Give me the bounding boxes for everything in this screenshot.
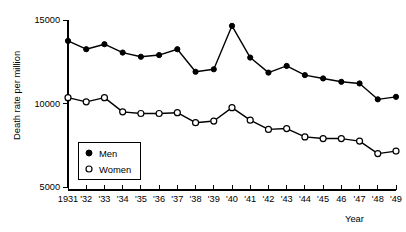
x-tick-label: '36: [153, 194, 165, 204]
y-axis-title: Death rate per million: [11, 51, 22, 140]
data-point: [320, 136, 326, 142]
x-tick-label: '47: [354, 194, 366, 204]
data-point: [393, 148, 399, 154]
data-point: [174, 110, 180, 116]
data-point: [247, 117, 253, 123]
y-tick-label: 5000: [40, 182, 60, 192]
legend-marker-women: [86, 166, 92, 172]
x-tick-label: '48: [372, 194, 384, 204]
data-point: [65, 95, 71, 101]
x-tick-label: '37: [171, 194, 183, 204]
x-tick-label: '42: [262, 194, 274, 204]
data-point: [84, 47, 89, 52]
data-point: [339, 79, 344, 84]
line-chart: 50001000015000 1931'32'33'34'35'36'37'38…: [0, 0, 406, 232]
x-axis: 1931'32'33'34'35'36'37'38'39'40'41'42'43…: [58, 185, 402, 204]
x-tick-label: '33: [98, 194, 110, 204]
data-point: [193, 69, 198, 74]
data-point: [375, 151, 381, 157]
x-tick-label: '49: [390, 194, 402, 204]
data-point: [284, 126, 290, 132]
data-point: [65, 38, 70, 43]
data-point: [248, 55, 253, 60]
data-point: [156, 111, 162, 117]
x-tick-label: '40: [226, 194, 238, 204]
data-point: [265, 126, 271, 132]
legend-marker-men: [86, 150, 92, 156]
data-point: [321, 76, 326, 81]
data-point: [120, 109, 126, 115]
data-point: [211, 118, 217, 124]
x-tick-label: '32: [80, 194, 92, 204]
x-tick-label: '34: [117, 194, 129, 204]
data-point: [211, 67, 216, 72]
data-point: [375, 97, 380, 102]
data-point: [175, 47, 180, 52]
y-axis: 50001000015000: [34, 15, 68, 192]
data-point: [229, 23, 234, 28]
data-point: [284, 63, 289, 68]
data-point: [102, 42, 107, 47]
legend-label-women: Women: [99, 164, 131, 175]
data-point: [229, 105, 235, 111]
data-point: [302, 134, 308, 140]
data-point: [138, 111, 144, 117]
x-tick-label: '44: [299, 194, 311, 204]
x-tick-label: '38: [190, 194, 202, 204]
chart-legend: Men Women: [78, 142, 140, 179]
data-point: [120, 50, 125, 55]
data-point: [157, 52, 162, 57]
data-point: [302, 73, 307, 78]
y-tick-label: 15000: [34, 15, 60, 25]
chart-figure: 50001000015000 1931'32'33'34'35'36'37'38…: [0, 0, 406, 232]
y-tick-group: 50001000015000: [34, 15, 68, 192]
x-tick-label: 46: [336, 194, 346, 204]
data-point: [357, 81, 362, 86]
x-tick-label: '39: [208, 194, 220, 204]
y-tick-label: 10000: [34, 99, 60, 109]
series-layer: [65, 23, 399, 156]
data-point: [393, 94, 398, 99]
data-point: [101, 95, 107, 101]
series-men: [65, 23, 398, 102]
x-tick-label: '41: [244, 194, 256, 204]
x-axis-title: Year: [345, 213, 364, 224]
data-point: [266, 70, 271, 75]
data-point: [193, 120, 199, 126]
data-point: [338, 136, 344, 142]
data-point: [138, 54, 143, 59]
legend-label-men: Men: [99, 148, 117, 159]
data-point: [357, 138, 363, 144]
x-tick-label: 1931: [58, 194, 78, 204]
data-point: [83, 99, 89, 105]
x-tick-label: '35: [135, 194, 147, 204]
x-tick-label: '43: [281, 194, 293, 204]
series-line-men: [68, 26, 396, 99]
x-tick-group: 1931'32'33'34'35'36'37'38'39'40'41'42'43…: [58, 185, 402, 204]
x-tick-label: '45: [317, 194, 329, 204]
